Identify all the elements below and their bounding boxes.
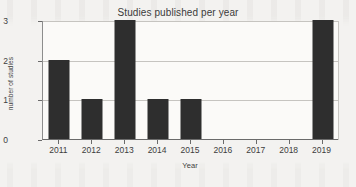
x-axis-label: Year xyxy=(42,161,338,170)
bar-2019[interactable] xyxy=(312,20,333,139)
plot-area xyxy=(42,21,338,140)
x-axis-tick-mark xyxy=(256,140,257,144)
bar-2013[interactable] xyxy=(115,20,136,139)
bars-group xyxy=(43,21,338,139)
bar-slot xyxy=(175,21,208,139)
y-axis-tick-label: 2 xyxy=(0,56,8,66)
bar-2015[interactable] xyxy=(180,99,201,139)
y-axis-tick-label: 1 xyxy=(0,95,8,105)
x-axis-tick-mark xyxy=(91,140,92,144)
x-axis-tick-mark xyxy=(58,140,59,144)
bar-slot xyxy=(306,21,339,139)
bar-slot xyxy=(76,21,109,139)
x-axis-tick-mark xyxy=(322,140,323,144)
y-axis-tick-label: 3 xyxy=(0,16,8,26)
bar-slot xyxy=(240,21,273,139)
bar-chart-figure: Studies published per year number of stu… xyxy=(0,0,356,187)
x-axis-tick-mark xyxy=(190,140,191,144)
y-axis-tick-mark xyxy=(38,140,42,141)
bar-2014[interactable] xyxy=(148,99,169,139)
y-axis-tick-mark xyxy=(38,100,42,101)
bar-slot xyxy=(273,21,306,139)
x-axis-tick-mark xyxy=(124,140,125,144)
y-axis-tick-label: 0 xyxy=(0,135,8,145)
x-axis-tick-mark xyxy=(289,140,290,144)
chart-title: Studies published per year xyxy=(0,7,356,18)
x-axis-tick-mark xyxy=(223,140,224,144)
x-axis-tick-mark xyxy=(157,140,158,144)
bar-2011[interactable] xyxy=(49,60,70,139)
y-axis-tick-mark xyxy=(38,21,42,22)
bar-slot xyxy=(142,21,175,139)
bar-2012[interactable] xyxy=(82,99,103,139)
y-axis-tick-mark xyxy=(38,61,42,62)
bar-slot xyxy=(109,21,142,139)
bar-slot xyxy=(43,21,76,139)
bar-slot xyxy=(207,21,240,139)
x-axis-tick-label-2019: 2019 xyxy=(302,145,342,155)
